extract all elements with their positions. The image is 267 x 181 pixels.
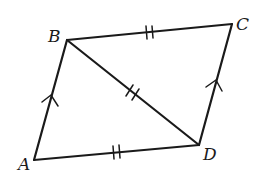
vertex-label-b: B (47, 26, 61, 46)
segment-da (34, 145, 199, 160)
segment-ab (34, 40, 67, 160)
diagonal-bd (67, 40, 199, 145)
segment-bc (67, 24, 232, 40)
vertex-label-a: A (16, 154, 30, 174)
segment-cd (199, 24, 232, 145)
vertex-label-c: C (236, 14, 249, 34)
parallelogram-diagram: A B C D (0, 0, 267, 181)
vertex-label-d: D (202, 144, 217, 164)
